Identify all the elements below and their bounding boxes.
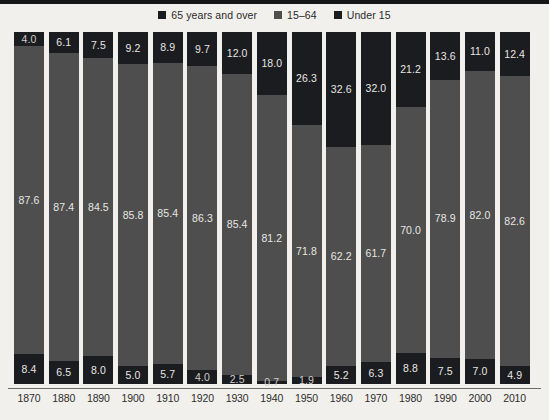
segment-value-label: 8.9 [160, 42, 175, 53]
bar-segment-under-15: 11.0 [465, 32, 495, 71]
bar-column: 13.678.97.5 [430, 32, 460, 384]
legend-swatch-65-and-over [158, 11, 166, 19]
bar-segment-under-15: 9.2 [118, 32, 148, 64]
x-axis-tick-label: 1930 [222, 392, 252, 410]
bar-column: 32.662.25.2 [326, 32, 356, 384]
segment-value-label: 32.0 [365, 83, 386, 94]
bar-column: 4.087.68.4 [14, 32, 44, 384]
x-axis-line [8, 388, 541, 389]
bar-column: 6.187.46.5 [49, 32, 79, 384]
bar-segment-65-and-over: 5.2 [326, 366, 356, 384]
bar-column: 7.584.58.0 [83, 32, 113, 384]
bar-segment-under-15: 4.0 [14, 32, 44, 46]
segment-value-label: 26.3 [296, 73, 317, 84]
segment-value-label: 9.2 [126, 43, 141, 54]
stacked-bar-group: 4.087.68.46.187.46.57.584.58.09.285.85.0… [14, 32, 535, 384]
x-axis-tick-label: 1990 [430, 392, 460, 410]
bar-segment-65-and-over: 7.0 [465, 359, 495, 384]
bar-segment-65-and-over: 4.0 [187, 370, 217, 384]
segment-value-label: 78.9 [435, 213, 456, 224]
segment-value-label: 70.0 [400, 225, 421, 236]
segment-value-label: 82.6 [504, 216, 525, 227]
segment-value-label: 4.0 [195, 372, 210, 383]
legend-item-65-and-over: 65 years and over [158, 9, 257, 21]
bar-segment-under-15: 7.5 [83, 32, 113, 58]
bar-segment-15-64: 61.7 [361, 145, 391, 362]
bar-segment-65-and-over: 8.0 [83, 356, 113, 384]
bar-segment-65-and-over: 7.5 [430, 358, 460, 384]
segment-value-label: 2.5 [230, 374, 245, 385]
segment-value-label: 5.0 [126, 370, 141, 381]
x-axis-tick-label: 1890 [83, 392, 113, 410]
bar-segment-15-64: 62.2 [326, 147, 356, 366]
bar-column: 26.371.81.9 [292, 32, 322, 384]
segment-value-label: 84.5 [88, 202, 109, 213]
segment-value-label: 6.5 [56, 367, 71, 378]
bar-segment-15-64: 82.6 [500, 76, 530, 367]
bar-segment-15-64: 84.5 [83, 58, 113, 355]
segment-value-label: 4.9 [507, 370, 522, 381]
bar-column: 21.270.08.8 [396, 32, 426, 384]
bar-segment-under-15: 6.1 [49, 32, 79, 53]
x-axis-tick-label: 1980 [396, 392, 426, 410]
bar-segment-15-64: 86.3 [187, 66, 217, 370]
x-axis-tick-label: 1870 [14, 392, 44, 410]
segment-value-label: 32.6 [331, 84, 352, 95]
x-axis-tick-label: 1900 [118, 392, 148, 410]
bar-column: 12.085.42.5 [222, 32, 252, 384]
bar-segment-under-15: 32.6 [326, 32, 356, 147]
segment-value-label: 1.9 [299, 375, 314, 386]
bar-column: 12.482.64.9 [500, 32, 530, 384]
bar-segment-under-15: 32.0 [361, 32, 391, 145]
legend-label-15-64: 15–64 [287, 9, 317, 21]
segment-value-label: 82.0 [470, 210, 491, 221]
bar-segment-under-15: 12.0 [222, 32, 252, 74]
bar-segment-15-64: 85.4 [153, 63, 183, 364]
bar-segment-65-and-over: 5.0 [118, 366, 148, 384]
segment-value-label: 12.4 [504, 49, 525, 60]
segment-value-label: 18.0 [261, 58, 282, 69]
segment-value-label: 86.3 [192, 213, 213, 224]
x-axis-tick-label: 1950 [292, 392, 322, 410]
legend-item-15-64: 15–64 [274, 9, 317, 21]
bar-segment-under-15: 8.9 [153, 32, 183, 63]
bar-segment-65-and-over: 6.5 [49, 361, 79, 384]
bar-column: 9.285.85.0 [118, 32, 148, 384]
segment-value-label: 9.7 [195, 44, 210, 55]
x-axis-tick-label: 1880 [49, 392, 79, 410]
segment-value-label: 61.7 [365, 248, 386, 259]
segment-value-label: 87.6 [19, 195, 40, 206]
bar-segment-under-15: 18.0 [257, 32, 287, 95]
segment-value-label: 81.2 [261, 233, 282, 244]
bar-segment-65-and-over: 5.7 [153, 364, 183, 384]
bar-segment-under-15: 12.4 [500, 32, 530, 76]
segment-value-label: 5.2 [334, 370, 349, 381]
bar-segment-15-64: 87.6 [14, 46, 44, 354]
x-axis-tick-label: 1960 [326, 392, 356, 410]
segment-value-label: 6.1 [56, 37, 71, 48]
x-axis-tick-labels: 1870188018901900191019201930194019501960… [14, 392, 535, 410]
bar-segment-under-15: 26.3 [292, 32, 322, 125]
segment-value-label: 71.8 [296, 246, 317, 257]
bar-segment-15-64: 81.2 [257, 95, 287, 381]
legend-label-65-and-over: 65 years and over [171, 9, 257, 21]
segment-value-label: 8.4 [22, 364, 37, 375]
segment-value-label: 13.6 [435, 51, 456, 62]
bar-segment-15-64: 82.0 [465, 71, 495, 360]
legend-label-under-15: Under 15 [347, 9, 391, 21]
bar-column: 11.082.07.0 [465, 32, 495, 384]
x-axis-tick-label: 2010 [500, 392, 530, 410]
bar-segment-15-64: 70.0 [396, 107, 426, 353]
segment-value-label: 4.0 [22, 34, 37, 45]
segment-value-label: 7.5 [91, 40, 106, 51]
bar-column: 18.081.20.7 [257, 32, 287, 384]
bar-segment-65-and-over: 2.5 [222, 375, 252, 384]
x-axis-tick-label: 1910 [153, 392, 183, 410]
bar-segment-65-and-over: 8.8 [396, 353, 426, 384]
segment-value-label: 12.0 [227, 48, 248, 59]
bar-segment-65-and-over: 8.4 [14, 354, 44, 384]
segment-value-label: 6.3 [368, 368, 383, 379]
segment-value-label: 85.8 [123, 210, 144, 221]
segment-value-label: 0.7 [264, 377, 279, 388]
chart-plot-area: 4.087.68.46.187.46.57.584.58.09.285.85.0… [0, 32, 549, 388]
